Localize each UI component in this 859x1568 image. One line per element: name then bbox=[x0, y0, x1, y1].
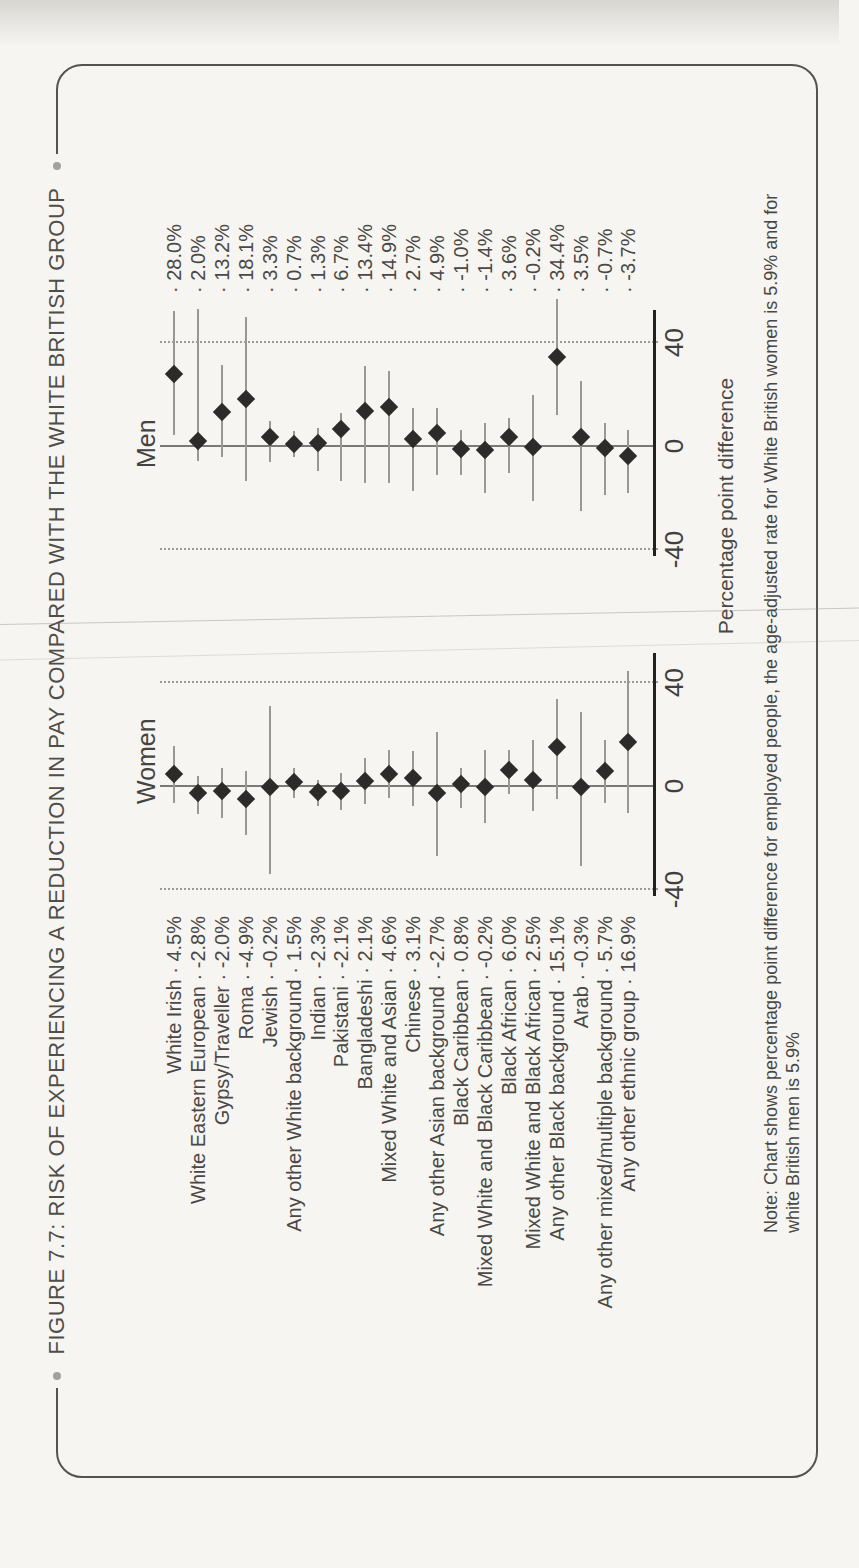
diamond-marker-women bbox=[284, 773, 302, 791]
category-label: Any other Black background · 15.1% bbox=[546, 916, 568, 1476]
diamond-marker-women bbox=[500, 761, 518, 779]
diamond-marker-men bbox=[476, 440, 494, 458]
diamond-marker-men bbox=[284, 435, 302, 453]
category-label: Arab · -0.3% bbox=[570, 916, 592, 1476]
diamond-marker-men bbox=[308, 433, 326, 451]
note-line-1: Note: Chart shows percentage point diffe… bbox=[760, 194, 782, 1233]
value-label-men: · 1.3% bbox=[307, 235, 329, 293]
value-label-men: · 3.6% bbox=[498, 235, 520, 293]
diamond-marker-men bbox=[619, 446, 637, 464]
diamond-marker-women bbox=[476, 777, 494, 795]
diamond-marker-men bbox=[237, 390, 255, 408]
panel-title-men: Men bbox=[132, 419, 161, 468]
category-label: Jewish · -0.2% bbox=[259, 916, 281, 1476]
diamond-marker-men bbox=[380, 398, 398, 416]
figure-note: Note: Chart shows percentage point diffe… bbox=[760, 194, 804, 1233]
dotted-gridline-men bbox=[160, 549, 658, 551]
value-label-men: · 2.7% bbox=[402, 235, 424, 293]
diamond-marker-men bbox=[189, 432, 207, 450]
value-label-men: · 34.4% bbox=[546, 224, 568, 293]
category-label: Bangladeshi · 2.1% bbox=[354, 916, 376, 1476]
category-label: Gypsy/Traveller · -2.0% bbox=[211, 916, 233, 1476]
axis-tick-label: 40 bbox=[659, 328, 690, 357]
diamond-marker-women bbox=[548, 738, 566, 756]
diamond-marker-men bbox=[356, 402, 374, 420]
dotted-gridline-men bbox=[160, 342, 658, 344]
category-label: Indian · -2.3% bbox=[307, 916, 329, 1476]
panel-title-women: Women bbox=[132, 718, 161, 804]
diamond-marker-men bbox=[332, 419, 350, 437]
value-label-men: · 2.0% bbox=[187, 235, 209, 293]
diamond-marker-women bbox=[619, 733, 637, 751]
diamond-marker-men bbox=[595, 439, 613, 457]
diamond-marker-women bbox=[380, 765, 398, 783]
value-label-men: · 3.5% bbox=[570, 235, 592, 293]
value-label-men: · 18.1% bbox=[235, 224, 257, 293]
category-label: Mixed White and Black Caribbean · -0.2% bbox=[474, 916, 496, 1476]
category-label: Any other Asian background · -2.7% bbox=[426, 916, 448, 1476]
dotted-gridline-women bbox=[160, 889, 658, 891]
photo-edge-shade bbox=[0, 0, 839, 46]
axis-tick-label: -40 bbox=[659, 531, 690, 569]
value-label-men: · -1.4% bbox=[474, 229, 496, 293]
diamond-marker-women bbox=[356, 771, 374, 789]
value-label-men: · -0.7% bbox=[594, 229, 616, 293]
value-label-men: · 0.7% bbox=[283, 235, 305, 293]
axis-tick-label: 0 bbox=[659, 439, 690, 453]
value-label-men: · -3.7% bbox=[617, 229, 639, 293]
category-label: Mixed White and Asian · 4.6% bbox=[378, 916, 400, 1476]
value-label-men: · 14.9% bbox=[378, 224, 400, 293]
axis-tick-label: 0 bbox=[659, 779, 690, 793]
diamond-marker-men bbox=[428, 424, 446, 442]
category-label: Any other mixed/multiple background · 5.… bbox=[594, 916, 616, 1476]
category-label: Black Caribbean · 0.8% bbox=[450, 916, 472, 1476]
ci-line-men bbox=[364, 366, 366, 483]
diamond-marker-women bbox=[452, 775, 470, 793]
axis-tick-label: 40 bbox=[659, 668, 690, 697]
category-label: Chinese · 3.1% bbox=[402, 916, 424, 1476]
value-label-men: · 6.7% bbox=[330, 235, 352, 293]
value-label-men: · 13.2% bbox=[211, 224, 233, 293]
diamond-marker-men bbox=[548, 348, 566, 366]
category-label: White Irish · 4.5% bbox=[163, 916, 185, 1476]
x-axis-label: Percentage point difference bbox=[714, 378, 738, 634]
value-label-men: · -1.0% bbox=[450, 229, 472, 293]
diamond-marker-women bbox=[260, 777, 278, 795]
value-label-men: · 28.0% bbox=[163, 224, 185, 293]
diamond-marker-men bbox=[213, 403, 231, 421]
rotated-figure-container: FIGURE 7.7: RISK OF EXPERIENCING A REDUC… bbox=[56, 64, 818, 1478]
diamond-marker-men bbox=[165, 364, 183, 382]
diamond-marker-men bbox=[260, 428, 278, 446]
diamond-marker-women bbox=[165, 765, 183, 783]
figure-border-box: FIGURE 7.7: RISK OF EXPERIENCING A REDUC… bbox=[56, 64, 818, 1478]
category-label: Roma · -4.9% bbox=[235, 916, 257, 1476]
note-line-2: white British men is 5.9% bbox=[782, 194, 804, 1233]
diamond-marker-men bbox=[500, 427, 518, 445]
dot-plot-chart: -40040Women-40040MenWhite Irish · 4.5%· … bbox=[58, 66, 816, 1476]
diamond-marker-men bbox=[524, 437, 542, 455]
axis-line-women bbox=[653, 653, 656, 896]
category-label: Pakistani · -2.1% bbox=[330, 916, 352, 1476]
value-label-men: · 3.3% bbox=[259, 235, 281, 293]
diamond-marker-women bbox=[571, 778, 589, 796]
category-label: Any other ethnic group · 16.9% bbox=[617, 916, 639, 1476]
axis-line-men bbox=[653, 310, 656, 556]
diamond-marker-men bbox=[571, 428, 589, 446]
diamond-marker-men bbox=[452, 439, 470, 457]
ci-line-men bbox=[604, 423, 606, 495]
dotted-gridline-women bbox=[160, 682, 658, 684]
category-label: Mixed White and Black African · 2.5% bbox=[522, 916, 544, 1476]
category-label: White Eastern European · -2.8% bbox=[187, 916, 209, 1476]
value-label-men: · 4.9% bbox=[426, 235, 448, 293]
category-label: Black African · 6.0% bbox=[498, 916, 520, 1476]
category-label: Any other White background · 1.5% bbox=[283, 916, 305, 1476]
ci-line-men bbox=[388, 371, 390, 483]
diamond-marker-women bbox=[595, 762, 613, 780]
diamond-marker-women bbox=[237, 789, 255, 807]
value-label-men: · -0.2% bbox=[522, 229, 544, 293]
value-label-men: · 13.4% bbox=[354, 224, 376, 293]
axis-tick-label: -40 bbox=[659, 871, 690, 909]
ci-line-men bbox=[412, 408, 414, 491]
